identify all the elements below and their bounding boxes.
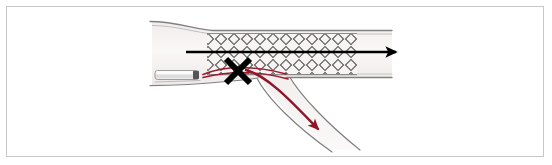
illustration-canvas: [0, 0, 552, 165]
figure-root: Failed side-branch access through stent …: [0, 0, 552, 165]
catheter-shaft: [155, 71, 198, 80]
catheter-marker-band: [193, 71, 199, 79]
